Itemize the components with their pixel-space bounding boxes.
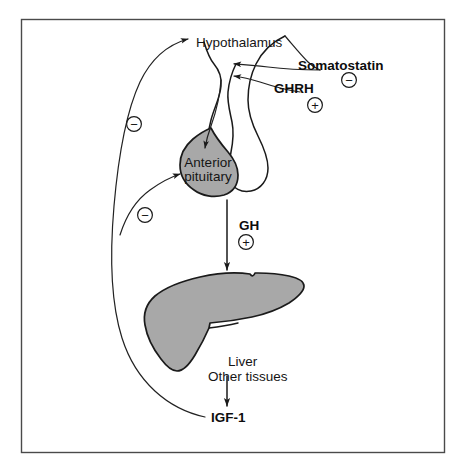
hypothalamus-label: Hypothalamus bbox=[196, 35, 283, 50]
anterior-pituitary-label-line2: pituitary bbox=[184, 169, 232, 184]
lower-feedback-sign-badge: − bbox=[138, 208, 153, 223]
upper-feedback-sign-text: − bbox=[130, 117, 138, 132]
gh-axis-diagram: − + + − − Hypothalamus Somatostatin GHRH… bbox=[0, 0, 465, 474]
igf1-feedback-to-pituitary bbox=[120, 174, 180, 235]
igf1-label: IGF-1 bbox=[211, 410, 246, 425]
figure-root: − + + − − Hypothalamus Somatostatin GHRH… bbox=[0, 0, 465, 474]
lower-feedback-sign-text: − bbox=[141, 208, 149, 223]
gh-label: GH bbox=[239, 218, 259, 233]
liver-shape bbox=[144, 273, 304, 371]
gh-sign-badge: + bbox=[239, 235, 254, 251]
liver-fissure bbox=[209, 323, 238, 328]
anterior-pituitary-label-line1: Anterior bbox=[184, 155, 232, 170]
figure-border bbox=[22, 20, 445, 453]
somatostatin-sign-text: − bbox=[345, 73, 353, 88]
liver-label-line1: Liver bbox=[228, 354, 258, 369]
upper-feedback-sign-badge: − bbox=[127, 117, 142, 132]
ghrh-sign-text: + bbox=[311, 98, 319, 113]
posterior-pituitary-outline bbox=[230, 36, 285, 191]
gh-sign-text: + bbox=[242, 235, 250, 250]
ghrh-label: GHRH bbox=[274, 81, 314, 96]
liver-label-line2: Other tissues bbox=[208, 369, 288, 384]
ghrh-sign-badge: + bbox=[308, 98, 323, 114]
somatostatin-sign-badge: − bbox=[342, 73, 357, 88]
somatostatin-label: Somatostatin bbox=[298, 58, 384, 73]
